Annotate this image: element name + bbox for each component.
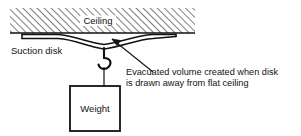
suction-disk-label: Suction disk — [11, 45, 62, 56]
weight-label: Weight — [80, 103, 110, 114]
ceiling-block: Ceiling — [10, 8, 195, 33]
annotation-text: Evacuated volume created when disk is dr… — [126, 67, 279, 88]
weight-box: Weight — [70, 86, 120, 131]
disk-upper-surface — [22, 35, 176, 45]
hook — [99, 48, 111, 69]
diagram-canvas: Ceiling Weight Suction disk — [0, 0, 301, 136]
annotation-line-1: Evacuated volume created when disk — [126, 67, 279, 77]
ceiling-label: Ceiling — [83, 15, 112, 26]
suction-disk-figure: Ceiling Weight Suction disk — [0, 0, 301, 136]
annotation-line-2: is drawn away from flat ceiling — [126, 78, 249, 88]
